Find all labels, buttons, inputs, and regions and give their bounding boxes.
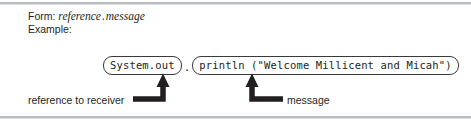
receiver-connector-icon [133,74,170,100]
message-pill: println ("Welcome Millicent and Micah") [192,56,458,75]
figure-container: Form: reference.message Example: System.… [0,0,471,123]
bottom-divider-rule-shadow [0,118,471,119]
form-reference-operand: reference [58,10,101,22]
dot-operator: . [182,61,193,74]
caption-reference-to-receiver: reference to receiver [28,94,124,106]
example-label: Example: [28,23,72,36]
code-example-row: System.out.println ("Welcome Millicent a… [103,55,459,75]
form-label: Form: [28,10,55,22]
top-divider-rule-shadow [0,4,471,5]
receiver-pill: System.out [103,56,182,75]
message-connector-icon [246,74,284,100]
form-message-operand: message [106,10,145,22]
caption-message: message [287,94,330,106]
form-line: Form: reference.message [28,10,145,23]
